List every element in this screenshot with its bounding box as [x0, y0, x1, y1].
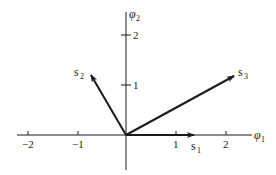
vector-label-s2: s 2	[74, 65, 84, 81]
svg-text:1: 1	[197, 146, 201, 155]
vector-label-s3: s 3	[238, 65, 248, 81]
svg-text:1: 1	[261, 135, 265, 144]
y-axis-label: φ 2	[129, 7, 140, 23]
svg-text:φ: φ	[254, 128, 261, 142]
svg-text:s: s	[191, 139, 196, 153]
signal-space-diagram: −2 −1 1 2 1 2 φ 1 φ 2 s 1 s 2 s 3	[0, 0, 276, 175]
x-tick-label: 1	[173, 138, 179, 150]
x-tick-label: −2	[22, 138, 34, 150]
y-tick-label: 2	[133, 29, 139, 41]
vector-s3	[126, 76, 234, 135]
y-tick-label: 1	[133, 79, 139, 91]
svg-text:3: 3	[244, 72, 248, 81]
svg-text:s: s	[238, 65, 243, 79]
svg-text:φ: φ	[129, 7, 136, 21]
x-tick-label: 2	[223, 138, 229, 150]
svg-text:2: 2	[136, 14, 140, 23]
x-axis-label: φ 1	[254, 128, 265, 144]
svg-text:2: 2	[80, 72, 84, 81]
svg-text:s: s	[74, 65, 79, 79]
x-tick-label: −1	[72, 138, 84, 150]
vector-label-s1: s 1	[191, 139, 201, 155]
vector-s2	[91, 75, 126, 135]
